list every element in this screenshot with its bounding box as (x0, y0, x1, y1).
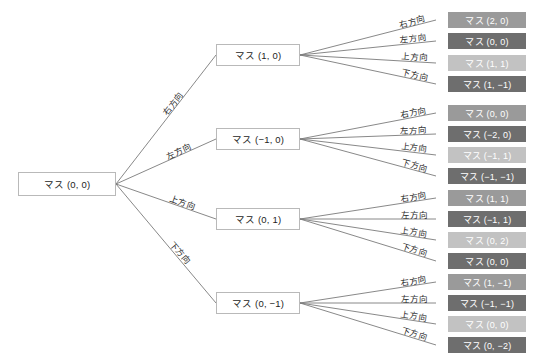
node-leaf-3-1: マス (−1, −1) (448, 295, 526, 311)
node-leaf-0-1: マス (0, 0) (448, 33, 526, 49)
node-leaf-2-2: マス (0, 2) (448, 232, 526, 248)
node-branch-0: マス (1, 0) (216, 44, 300, 66)
node-root: マス (0, 0) (18, 172, 116, 196)
node-branch-3: マス (0, −1) (216, 292, 300, 314)
tree-diagram-canvas: マス (0, 0)右方向マス (1, 0)右方向マス (2, 0)左方向マス (… (0, 0, 549, 358)
node-leaf-2-3: マス (0, 0) (448, 253, 526, 269)
node-leaf-1-2: マス (−1, 1) (448, 147, 526, 163)
node-leaf-3-3: マス (0, −2) (448, 337, 526, 353)
edge-label-branch-3-leaf-1: 左方向 (401, 292, 428, 304)
edge-root-to-branch-1 (116, 139, 216, 184)
edge-label-branch-1-leaf-1: 左方向 (400, 123, 427, 136)
node-leaf-0-3: マス (1, −1) (448, 76, 526, 92)
node-leaf-0-2: マス (1, 1) (448, 55, 526, 71)
node-leaf-3-0: マス (1, −1) (448, 274, 526, 290)
node-leaf-1-1: マス (−2, 0) (448, 126, 526, 142)
node-leaf-3-2: マス (0, 0) (448, 316, 526, 332)
edge-root-to-branch-0 (116, 55, 216, 184)
edge-label-branch-2-leaf-1: 左方向 (401, 208, 428, 220)
node-leaf-2-0: マス (1, 1) (448, 190, 526, 206)
node-branch-2: マス (0, 1) (216, 208, 300, 230)
node-leaf-2-1: マス (−1, 1) (448, 211, 526, 227)
node-branch-1: マス (−1, 0) (216, 128, 300, 150)
node-leaf-1-0: マス (0, 0) (448, 105, 526, 121)
node-leaf-1-3: マス (−1, −1) (448, 168, 526, 184)
node-leaf-0-0: マス (2, 0) (448, 12, 526, 28)
edge-label-branch-0-leaf-2: 上方向 (401, 49, 429, 63)
